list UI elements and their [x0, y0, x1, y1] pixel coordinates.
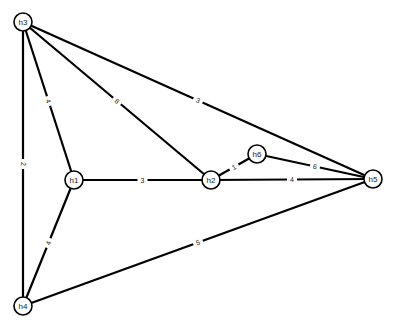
edge-h2-h5: 4 [211, 175, 373, 183]
edge-weight-label: 2 [20, 162, 27, 166]
edge-h1-h4: 4 [23, 180, 74, 306]
node-h5[interactable]: h5 [364, 170, 382, 188]
graph-diagram: 2483341465 h3h1h2h6h5h4 [0, 0, 394, 331]
edge-h1-h2: 3 [74, 176, 211, 184]
node-label: h3 [19, 18, 28, 27]
node-h3[interactable]: h3 [14, 13, 32, 31]
node-label: h6 [253, 150, 262, 159]
node-label: h1 [70, 176, 79, 185]
edge-h6-h5: 6 [257, 154, 373, 179]
node-h2[interactable]: h2 [202, 171, 220, 189]
node-h1[interactable]: h1 [65, 171, 83, 189]
edge-h4-h5: 5 [23, 179, 373, 306]
edge-h3-h5: 3 [23, 22, 373, 179]
edge-weight-label: 3 [141, 177, 145, 184]
node-h4[interactable]: h4 [14, 297, 32, 315]
edges-layer: 2483341465 [19, 22, 373, 306]
node-label: h2 [207, 176, 216, 185]
edge-h3-h1: 4 [23, 22, 74, 180]
node-label: h5 [369, 175, 378, 184]
edge-weight-label: 4 [290, 176, 294, 183]
node-label: h4 [19, 302, 28, 311]
node-h6[interactable]: h6 [248, 145, 266, 163]
edge-h3-h4: 2 [19, 22, 27, 306]
